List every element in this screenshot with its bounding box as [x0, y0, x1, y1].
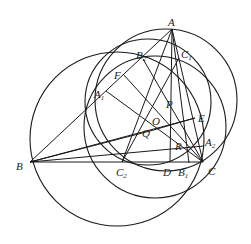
point-label-p: P	[165, 98, 173, 110]
point-label-a1: A1	[93, 88, 104, 102]
point-label-b2: B2	[136, 49, 147, 63]
point-label-c: C	[208, 165, 216, 177]
point-label-e: E	[197, 112, 205, 124]
geometry-diagram: ABCDEFPOQRA1A2B1B2C1C2	[0, 0, 251, 244]
point-label-b: B	[16, 160, 23, 172]
segment-c-b2	[143, 59, 203, 162]
point-label-q: Q	[142, 127, 150, 139]
point-label-r: R	[174, 140, 182, 152]
point-label-d: D	[162, 166, 171, 178]
point-label-a2: A2	[204, 136, 216, 150]
point-label-c1: C1	[181, 48, 192, 62]
segment-a-d	[170, 29, 172, 162]
point-label-c2: C2	[116, 166, 127, 180]
segment-b-q	[30, 131, 150, 162]
point-label-o: O	[152, 115, 160, 127]
point-label-a: A	[167, 16, 175, 28]
point-label-f: F	[113, 69, 121, 81]
